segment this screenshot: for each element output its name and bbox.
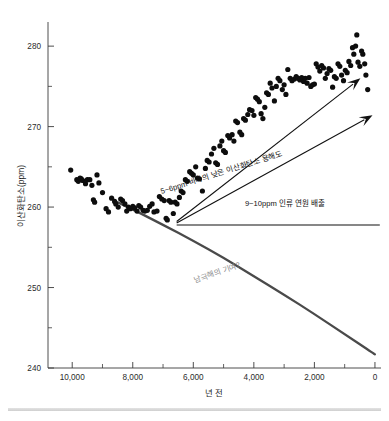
scatter-point [243,118,248,123]
ocean-solubility-label: 5~6ppm 바다의 낮은 이산화탄소 용해도 [159,148,283,196]
scatter-point [266,92,271,97]
scatter-point [89,183,94,188]
y-axis-tick-labels: 240250260270280 [27,42,41,373]
scatter-point [116,205,121,210]
scatter-point [280,87,285,92]
x-tick-label: 6,000 [183,373,204,382]
scatter-point [174,201,179,206]
scatter-point [171,211,176,216]
scatter-point [354,32,359,37]
scatter-point [351,52,356,57]
scatter-point [150,201,155,206]
upper-arrow-head [347,78,360,90]
scatter-point [92,200,97,205]
scatter-point [285,67,290,72]
scatter-point [94,172,99,177]
scatter-point [272,98,277,103]
scatter-point [348,63,353,68]
x-tick-label: 2,000 [304,373,325,382]
scatter-point [334,76,339,81]
scatter-point [180,190,185,195]
scatter-point [353,44,358,49]
chart-figure: 240250260270280 10,0008,0006,0004,0002,0… [0,0,389,421]
scatter-point [328,68,333,73]
scatter-point [68,168,73,173]
x-axis-title: 년 전 [205,388,223,398]
scatter-point [330,85,335,90]
y-tick-label: 270 [27,123,41,132]
y-axis-ticks [48,46,54,368]
scatter-point [321,65,326,70]
scatter-point [365,87,370,92]
annotation-labels: 5~6ppm 바다의 낮은 이산화탄소 용해도9~10ppm 인류 연원 배출남… [159,148,325,285]
scatter-point [165,217,170,222]
y-axis-title: 이산화탄소(ppm) [16,165,26,227]
antarctic-contribution-label: 남극해의 기여? [193,259,242,285]
scatter-point [306,75,311,80]
scatter-point [193,164,198,169]
scatter-point [235,120,240,125]
scatter-point [360,52,365,57]
scatter-point [200,188,205,193]
scatter-point [239,132,244,137]
scatter-point [203,166,208,171]
scatter-point [177,195,182,200]
scatter-point [231,139,236,144]
scatter-point [262,105,267,110]
scatter-point [283,92,288,97]
x-axis-ticks [72,362,375,368]
scatter-point [223,150,228,155]
footer-divider [8,408,381,411]
scatter-point [96,180,101,185]
scatter-point [249,108,254,113]
scatter-point [154,209,159,214]
scatter-point [134,209,139,214]
scatter-point [259,111,264,116]
scatter-point [312,81,317,86]
scatter-point [363,73,368,78]
scatter-point [209,151,214,156]
scatter-point [207,159,212,164]
scatter-point [268,81,273,86]
scatter-point [245,112,250,117]
scatter-point [106,209,111,214]
scatter-point [211,146,216,151]
x-axis-tick-labels: 10,0008,0006,0004,0002,0000 [60,373,378,382]
x-tick-label: 0 [373,373,378,382]
ocean-solubility-arrow-head [359,115,373,126]
scatter-point [230,132,235,137]
scatter-point [345,70,350,75]
scatter-point [357,64,362,69]
scatter-point [282,82,287,87]
scatter-point [100,190,105,195]
y-tick-label: 260 [27,203,41,212]
scatter-point [87,177,92,182]
scatter-point [215,162,220,167]
y-tick-label: 240 [27,364,41,373]
scatter-point [337,64,342,69]
scatter-point [251,113,256,118]
scatter-point [323,76,328,81]
scatter-point [217,143,222,148]
scatter-point [362,61,367,66]
scatter-point [341,78,346,83]
scatter-point [339,73,344,78]
anthropogenic-emissions-label: 9~10ppm 인류 연원 배출 [245,198,325,208]
scatter-point [260,116,265,121]
x-tick-label: 4,000 [244,373,265,382]
scatter-point [274,84,279,89]
scatter-point [277,78,282,83]
scatter-point [257,99,262,104]
y-tick-label: 280 [27,42,41,51]
y-tick-label: 250 [27,284,41,293]
scatter-data-points [68,32,370,222]
x-tick-label: 8,000 [123,373,144,382]
co2-scatter-chart: 240250260270280 10,0008,0006,0004,0002,0… [0,0,389,421]
scatter-point [219,139,224,144]
axes-frame [48,22,381,368]
scatter-point [162,198,167,203]
x-tick-label: 10,000 [60,373,85,382]
